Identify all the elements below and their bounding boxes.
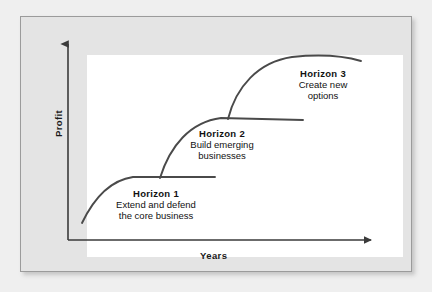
- horizon-1-line2: the core business: [96, 210, 216, 221]
- y-axis-label: Profit: [53, 110, 64, 137]
- horizon-3-label: Horizon 3 Create new options: [270, 68, 376, 102]
- horizon-1-label: Horizon 1 Extend and defend the core bus…: [96, 188, 216, 222]
- horizon-2-label: Horizon 2 Build emerging businesses: [164, 128, 280, 162]
- horizon-2-line1: Build emerging: [164, 139, 280, 150]
- horizon-2-title: Horizon 2: [164, 128, 280, 139]
- horizon-3-title: Horizon 3: [270, 68, 376, 79]
- horizon-1-title: Horizon 1: [96, 188, 216, 199]
- horizon-3-line2: options: [270, 90, 376, 101]
- x-axis-label: Years: [200, 250, 227, 261]
- slide-figure: Profit Years Horizon 1 Extend and defend…: [0, 0, 432, 292]
- horizon-2-line2: businesses: [164, 150, 280, 161]
- horizon-3-line1: Create new: [270, 79, 376, 90]
- horizon-1-line1: Extend and defend: [96, 199, 216, 210]
